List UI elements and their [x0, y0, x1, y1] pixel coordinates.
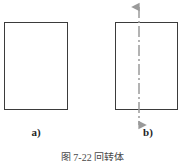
panel-label-a: a)	[14, 126, 58, 138]
figure-panel-a: a)	[0, 0, 92, 145]
axis-of-revolution-icon	[129, 0, 149, 132]
panel-label-b: b)	[126, 126, 170, 138]
figure-container: a) b) 图 7-22 回转体	[0, 0, 185, 161]
rectangle-shape-a	[4, 22, 68, 110]
figure-panel-b: b)	[93, 0, 185, 145]
figure-caption: 图 7-22 回转体	[0, 149, 185, 161]
